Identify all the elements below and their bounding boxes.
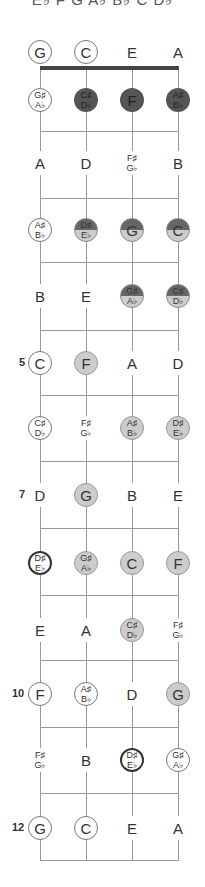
note-fret9-string-g: E [28, 618, 52, 642]
enharmonic-name: C♯ [35, 418, 46, 428]
enharmonic-name: G♭ [172, 630, 183, 640]
note-fret4-string-a: C♯D♭ [166, 284, 190, 308]
enharmonic-name: F♯ [34, 750, 45, 760]
enharmonic-name: A♯ [81, 684, 92, 694]
enharmonic-name: D♭ [81, 100, 92, 110]
enharmonic-name: D♯ [35, 553, 46, 563]
note-fret5-string-c: F [74, 351, 98, 375]
enharmonic-name: A♭ [126, 296, 138, 306]
enharmonic-name: A♭ [34, 100, 46, 110]
fret-line-3 [40, 262, 179, 263]
fret-line-1 [40, 131, 179, 132]
fret-line-11 [40, 793, 179, 794]
note-label: C [81, 45, 92, 60]
note-fret1-string-a: A♯B♭ [166, 88, 190, 112]
enharmonic-name: A♭ [80, 563, 92, 573]
enharmonic-name: E♭ [81, 230, 92, 240]
note-label: B [81, 753, 91, 768]
enharmonic-name: D♭ [35, 428, 46, 438]
enharmonic-name: E♭ [35, 563, 46, 573]
note-fret9-string-c: A [74, 618, 98, 642]
enharmonic-name: G♭ [126, 163, 137, 173]
note-label-enharmonic: C♯D♭ [81, 90, 92, 110]
note-fret0-string-a: A [166, 40, 190, 64]
note-label-enharmonic: G♯A♭ [172, 750, 184, 770]
note-label-enharmonic: A♯B♭ [127, 418, 138, 438]
note-label-enharmonic: A♯B♭ [35, 220, 46, 240]
enharmonic-name: A♯ [127, 418, 138, 428]
note-fret1-string-e: F [120, 88, 144, 112]
enharmonic-name: B♭ [81, 694, 92, 704]
note-fret5-string-a: D [166, 351, 190, 375]
enharmonic-name: G♯ [172, 750, 184, 760]
enharmonic-name: D♯ [127, 750, 138, 760]
note-label-enharmonic: F♯G♭ [34, 750, 45, 770]
note-label: G [172, 687, 184, 702]
note-label: E [127, 821, 137, 836]
enharmonic-name: F♯ [80, 418, 91, 428]
note-label: C [173, 223, 184, 238]
note-label: B [35, 289, 45, 304]
note-label-enharmonic: C♯D♭ [35, 418, 46, 438]
note-label: A [81, 623, 91, 638]
note-label: C [81, 821, 92, 836]
enharmonic-name: D♯ [81, 220, 92, 230]
note-label: E [127, 45, 137, 60]
note-fret6-string-c: F♯G♭ [74, 416, 98, 440]
note-fret5-string-e: A [120, 351, 144, 375]
note-fret4-string-e: G♯A♭ [120, 284, 144, 308]
enharmonic-name: B♭ [173, 100, 184, 110]
note-fret10-string-a: G [166, 682, 190, 706]
enharmonic-name: G♯ [126, 286, 138, 296]
note-fret0-string-c: C [74, 40, 98, 64]
note-label: F [35, 687, 44, 702]
note-fret6-string-e: A♯B♭ [120, 416, 144, 440]
enharmonic-name: D♯ [173, 418, 184, 428]
enharmonic-name: C♯ [173, 286, 184, 296]
note-label-enharmonic: G♯A♭ [34, 90, 46, 110]
enharmonic-name: C♯ [127, 620, 138, 630]
note-label: E [173, 488, 183, 503]
note-label: F [173, 556, 182, 571]
enharmonic-name: A♯ [173, 90, 184, 100]
enharmonic-name: C♯ [81, 90, 92, 100]
note-label: G [126, 223, 138, 238]
note-fret5-string-g: C [28, 351, 52, 375]
note-fret11-string-g: F♯G♭ [28, 748, 52, 772]
note-label: E [81, 289, 91, 304]
note-fret9-string-e: C♯D♭ [120, 618, 144, 642]
note-fret9-string-a: F♯G♭ [166, 618, 190, 642]
note-fret8-string-g: D♯E♭ [28, 551, 52, 575]
note-fret11-string-a: G♯A♭ [166, 748, 190, 772]
note-label: C [35, 356, 46, 371]
note-label: A [173, 45, 183, 60]
note-fret8-string-a: F [166, 551, 190, 575]
note-label: F [81, 356, 90, 371]
note-fret6-string-a: D♯E♭ [166, 416, 190, 440]
note-fret8-string-e: C [120, 551, 144, 575]
enharmonic-name: B♭ [35, 230, 46, 240]
enharmonic-name: A♭ [172, 760, 184, 770]
note-fret7-string-a: E [166, 483, 190, 507]
note-label: G [34, 821, 46, 836]
note-fret10-string-g: F [28, 682, 52, 706]
note-label-enharmonic: A♯B♭ [81, 684, 92, 704]
note-label-enharmonic: F♯G♭ [126, 153, 137, 173]
note-label: C [127, 556, 138, 571]
string-line-c [86, 68, 87, 860]
note-fret12-string-a: A [166, 816, 190, 840]
note-label-enharmonic: G♯A♭ [80, 553, 92, 573]
note-fret11-string-c: B [74, 748, 98, 772]
note-fret0-string-g: G [28, 40, 52, 64]
enharmonic-name: F♯ [126, 153, 137, 163]
note-label-enharmonic: F♯G♭ [172, 620, 183, 640]
note-fret3-string-a: C [166, 218, 190, 242]
note-fret8-string-c: G♯A♭ [74, 551, 98, 575]
note-fret10-string-c: A♯B♭ [74, 682, 98, 706]
fret-number-5: 5 [19, 356, 25, 368]
note-fret11-string-e: D♯E♭ [120, 748, 144, 772]
note-label-enharmonic: D♯E♭ [127, 750, 138, 770]
enharmonic-name: G♯ [80, 553, 92, 563]
enharmonic-name: A♯ [35, 220, 46, 230]
note-label-enharmonic: D♯E♭ [173, 418, 184, 438]
